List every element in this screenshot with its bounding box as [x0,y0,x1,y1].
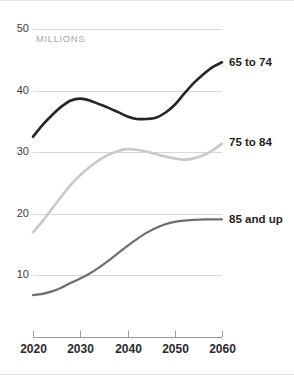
series-labels-group: 65 to 7475 to 8485 and up [229,56,283,225]
x-axis-tick-marks [34,331,223,337]
series-line-65-to-74 [33,62,222,137]
series-lines-group [33,62,222,295]
x-tick-label-2050: 2050 [162,342,189,356]
y-axis-tick-labels: 1020304050 [17,22,29,280]
series-line-85-and-up [33,219,222,295]
x-axis-tick-labels: 20202030204020502060 [20,342,236,356]
chart-figure: 1020304050 MILLIONS 65 to 7475 to 8485 a… [0,0,294,375]
x-tick-label-2030: 2030 [67,342,94,356]
series-label-85-and-up: 85 and up [229,213,283,225]
y-tick-label-50: 50 [17,22,29,34]
y-axis-unit-label: MILLIONS [36,33,85,44]
x-tick-label-2020: 2020 [20,342,47,356]
x-tick-label-2060: 2060 [209,342,236,356]
y-tick-label-30: 30 [17,145,29,157]
y-tick-label-20: 20 [17,207,29,219]
y-tick-label-10: 10 [17,268,29,280]
x-tick-label-2040: 2040 [115,342,142,356]
gridlines-group [33,30,222,276]
series-label-75-to-84: 75 to 84 [229,136,272,148]
population-projection-line-chart: 1020304050 MILLIONS 65 to 7475 to 8485 a… [0,1,294,375]
series-label-65-to-74: 65 to 74 [229,56,272,68]
y-tick-label-40: 40 [17,84,29,96]
